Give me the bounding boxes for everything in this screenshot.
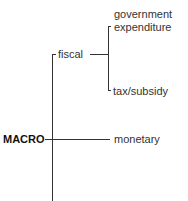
connector-to-fiscal xyxy=(52,54,56,55)
leaf-government-expenditure-line1: government xyxy=(114,8,172,20)
leaf-government-expenditure-line2: expenditure xyxy=(114,21,172,33)
connector-to-tax-subsidy xyxy=(108,90,111,91)
leaf-tax-subsidy: tax/subsidy xyxy=(113,85,168,97)
connector-macro-monetary xyxy=(45,139,110,140)
connector-trunk xyxy=(52,54,53,201)
connector-to-government-expenditure xyxy=(108,26,111,27)
connector-fiscal-bracket-vertical xyxy=(108,26,109,91)
branch-monetary: monetary xyxy=(114,133,160,145)
connector-fiscal-bracket xyxy=(90,54,108,55)
branch-fiscal: fiscal xyxy=(58,48,83,60)
root-node-macro: MACRO xyxy=(3,133,45,145)
